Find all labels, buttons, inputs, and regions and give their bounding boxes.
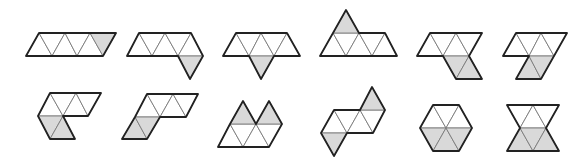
shape-10 (321, 87, 385, 156)
shape-12 (507, 105, 559, 151)
shape-7 (38, 93, 101, 139)
polyiamond-figure (0, 0, 584, 164)
shape-2 (127, 33, 203, 79)
shape-8 (122, 94, 198, 139)
shape-1 (26, 33, 116, 56)
shape-5 (417, 33, 482, 79)
shape-4 (320, 10, 397, 56)
shape-6 (503, 33, 567, 79)
shape-3 (223, 33, 300, 79)
shape-9 (218, 101, 282, 147)
shape-11 (420, 105, 472, 151)
